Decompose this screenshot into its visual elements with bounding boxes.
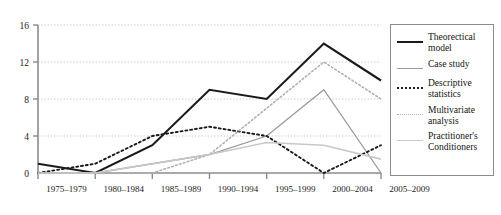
legend-swatch-multivariate-analysis [397, 108, 423, 120]
series-line-3 [38, 62, 381, 173]
legend-item-descriptive-statistics: Descriptive statistics [397, 78, 488, 100]
x-tick-label-4: 1995–1999 [275, 184, 316, 194]
legend-item-case-study: Case study [397, 59, 488, 74]
series-line-2 [38, 127, 381, 173]
legend-item-theoretical-model: Theorectical model [397, 32, 488, 54]
y-tick-label-16: 16 [20, 21, 30, 31]
legend-swatch-practitioners-conditioners [397, 134, 423, 146]
legend-item-multivariate-analysis: Multivariate analysis [397, 105, 488, 127]
x-tick-label-1: 1980–1984 [104, 184, 145, 194]
x-tick-label-0: 1975–1979 [46, 184, 87, 194]
x-tick-label-2: 1985–1989 [161, 184, 202, 194]
chart-container: 16 12 8 4 0 1975–1979 1980–1984 1985–198… [0, 0, 501, 215]
gridlines [38, 25, 381, 136]
x-tick-label-5: 2000–2004 [332, 184, 373, 194]
x-tick-label-6: 2005–2009 [389, 184, 430, 194]
legend-swatch-descriptive-statistics [397, 81, 423, 93]
legend-label-practitioners-conditioners: Practitioner's Conditioners [428, 131, 478, 153]
series-line-4 [38, 142, 381, 173]
legend-item-practitioners-conditioners: Practitioner's Conditioners [397, 131, 488, 153]
legend-swatch-case-study [397, 62, 423, 74]
legend-label-descriptive-statistics: Descriptive statistics [428, 78, 472, 100]
series-line-0 [38, 44, 381, 174]
y-tick-label-8: 8 [24, 95, 29, 105]
chart-legend: Theorectical model Case study Descriptiv… [390, 24, 494, 176]
y-tick-label-4: 4 [24, 132, 29, 142]
x-axis: 1975–1979 1980–1984 1985–1989 1990–1994 … [38, 173, 430, 194]
y-axis: 16 12 8 4 0 [20, 21, 39, 179]
y-tick-label-12: 12 [20, 58, 30, 68]
legend-label-theoretical-model: Theorectical model [428, 32, 475, 54]
legend-swatch-theoretical-model [397, 35, 423, 47]
series-line-1 [38, 90, 381, 173]
x-tick-label-3: 1990–1994 [218, 184, 259, 194]
legend-label-multivariate-analysis: Multivariate analysis [428, 105, 475, 127]
y-tick-label-0: 0 [24, 169, 29, 179]
data-series-layer [38, 44, 381, 174]
legend-label-case-study: Case study [428, 59, 469, 70]
